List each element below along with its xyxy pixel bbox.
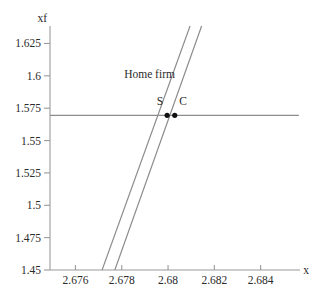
chart-figure: 1.451.4751.51.5251.551.5751.61.625 2.676… — [0, 0, 326, 300]
y-tick-label: 1.45 — [21, 264, 41, 276]
data-curves-group — [50, 26, 299, 270]
x-tick-label: 2.68 — [158, 274, 178, 286]
point-S — [165, 113, 170, 118]
chart-canvas: 1.451.4751.51.5251.551.5751.61.625 2.676… — [0, 0, 326, 300]
y-tick-label: 1.55 — [21, 135, 41, 147]
x-tick-label: 2.684 — [248, 274, 274, 286]
y-tick-label: 1.625 — [15, 37, 41, 49]
x-tick-label: 2.676 — [63, 274, 89, 286]
axes-group — [50, 26, 300, 270]
point-label-S: S — [157, 95, 163, 107]
x-tick-group: 2.6762.6782.682.6822.684 — [63, 265, 274, 286]
y-tick-group: 1.451.4751.51.5251.551.5751.61.625 — [15, 37, 50, 276]
y-tick-label: 1.525 — [15, 167, 41, 179]
series-supply-curve-C — [115, 26, 202, 270]
y-tick-label: 1.475 — [15, 232, 41, 244]
home-firm-label: Home firm — [124, 68, 175, 80]
x-tick-label: 2.678 — [109, 274, 135, 286]
point-C — [172, 113, 177, 118]
y-tick-label: 1.6 — [27, 70, 42, 82]
y-tick-label: 1.575 — [15, 102, 41, 114]
y-axis-title: xf — [37, 12, 47, 24]
point-label-C: C — [179, 95, 187, 107]
y-tick-label: 1.5 — [27, 199, 42, 211]
x-axis-title: x — [303, 264, 309, 276]
series-supply-curve-S — [102, 26, 190, 270]
x-tick-label: 2.682 — [201, 274, 227, 286]
annotations-group: Home firmSC — [124, 68, 187, 107]
